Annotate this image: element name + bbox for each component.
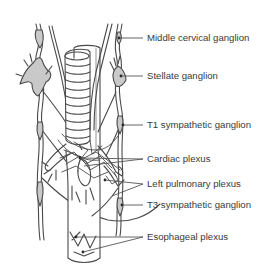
left-ganglia — [20, 30, 51, 206]
left-middle-cervical-ganglion — [35, 30, 43, 48]
label-esophageal-plexus: Esophageal plexus — [147, 231, 228, 242]
left-stellate-ganglion — [20, 58, 51, 96]
label-stellate-ganglion: Stellate ganglion — [147, 70, 218, 81]
label-cardiac-plexus: Cardiac plexus — [147, 153, 210, 164]
trachea — [65, 49, 90, 144]
label-t3-sympathetic-ganglion: T3 sympathetic ganglion — [147, 199, 251, 210]
right-t3-ganglion — [117, 198, 123, 216]
label-left-pulmonary-plexus: Left pulmonary plexus — [147, 178, 241, 189]
left-t1-ganglion — [37, 122, 43, 140]
label-middle-cervical-ganglion: Middle cervical ganglion — [147, 32, 249, 43]
label-t1-sympathetic-ganglion: T1 sympathetic ganglion — [147, 119, 251, 130]
